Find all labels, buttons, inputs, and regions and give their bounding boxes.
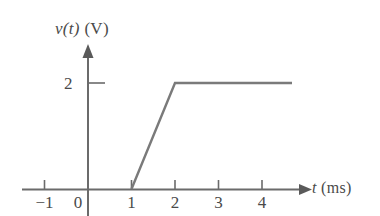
x-tick-label--1: −1 [33,194,57,211]
y-tick-label-2: 2 [64,75,73,92]
y-axis-unit: (V) [84,19,109,38]
x-tick-label-0: 0 [66,194,90,211]
waveform-trace [132,83,293,189]
x-axis-label: t (ms) [312,180,352,196]
y-axis-label: v(t) (V) [55,20,109,37]
x-axis-unit: (ms) [321,179,352,196]
y-axis-arrowhead [83,44,94,58]
x-axis-variable: t [312,179,317,196]
x-axis-arrowhead [299,184,312,195]
x-tick-label-4: 4 [250,194,274,211]
x-tick-label-2: 2 [163,194,187,211]
x-tick-label-1: 1 [120,194,144,211]
y-axis-variable: v [55,19,63,38]
waveform-figure: v(t) (V) t (ms) 2 −1 0 1 2 3 4 [0,0,380,216]
x-tick-label-3: 3 [207,194,231,211]
y-axis-argument: (t) [63,19,80,38]
